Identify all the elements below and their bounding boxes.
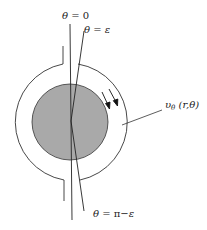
- velocity-leader-line: [122, 110, 162, 125]
- label-theta-eps: θ = ε: [84, 25, 110, 35]
- inner-cylinder: [32, 84, 108, 160]
- label-theta-pi-eps: θ = π−ε: [93, 209, 134, 219]
- label-theta-zero: θ = 0: [62, 11, 89, 21]
- label-velocity: υθ (r,θ): [165, 100, 199, 110]
